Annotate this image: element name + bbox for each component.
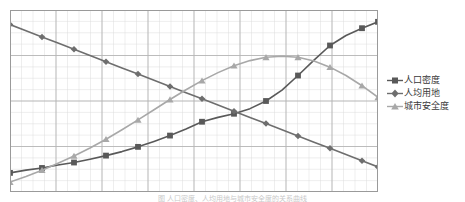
plot-border bbox=[10, 10, 378, 192]
legend-item-population-density[interactable]: 人口密度 bbox=[386, 74, 465, 87]
legend-label-urban-safety: 城市安全度 bbox=[404, 100, 449, 113]
diamond-marker-icon bbox=[386, 87, 404, 100]
chart-legend: 人口密度 人均用地 城市安全度 bbox=[386, 74, 465, 113]
legend-item-per-capita-land[interactable]: 人均用地 bbox=[386, 87, 465, 100]
legend-item-urban-safety[interactable]: 城市安全度 bbox=[386, 100, 465, 113]
legend-label-per-capita-land: 人均用地 bbox=[404, 87, 440, 100]
legend-label-population-density: 人口密度 bbox=[404, 74, 440, 87]
figure-container: 人口密度 人均用地 城市安全度 图 人口密度、人均用地与城市安全度的关系曲线 bbox=[0, 0, 465, 202]
plot-area bbox=[10, 10, 378, 192]
triangle-marker-icon bbox=[386, 100, 404, 113]
square-marker-icon bbox=[386, 74, 404, 87]
figure-caption: 图 人口密度、人均用地与城市安全度的关系曲线 bbox=[0, 195, 465, 202]
